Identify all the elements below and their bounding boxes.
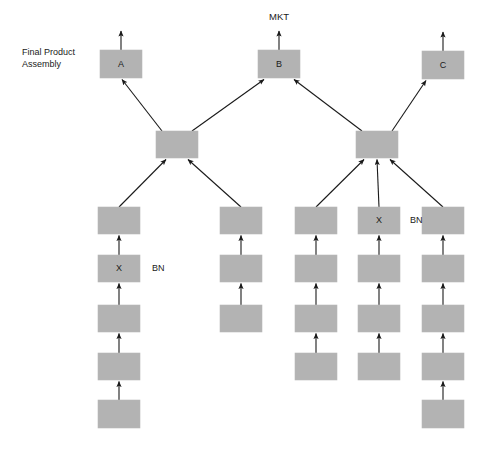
component-node[interactable]	[295, 207, 337, 234]
component-rect[interactable]	[295, 255, 337, 282]
component-rect[interactable]	[98, 353, 140, 380]
final-assembly-arrow	[192, 80, 264, 132]
component-node[interactable]	[295, 353, 337, 380]
component-rect[interactable]	[98, 207, 140, 234]
component-rect[interactable]	[422, 255, 464, 282]
bottleneck-annotation: BN	[410, 215, 423, 225]
component-node[interactable]	[422, 255, 464, 282]
final-product-label: B	[276, 59, 282, 69]
component-label: X	[376, 215, 382, 225]
component-rect[interactable]	[295, 305, 337, 332]
component-node[interactable]	[358, 305, 400, 332]
component-node[interactable]	[422, 305, 464, 332]
component-rect[interactable]	[358, 353, 400, 380]
component-label: X	[116, 263, 122, 273]
diagram-canvas: ABCXX Final Product Assembly MKT BNBN	[0, 0, 483, 457]
component-node[interactable]	[422, 353, 464, 380]
component-node[interactable]	[98, 400, 140, 428]
component-node[interactable]	[220, 207, 262, 234]
component-rect[interactable]	[422, 305, 464, 332]
assembly-arrow	[316, 160, 364, 208]
component-node[interactable]	[220, 255, 262, 282]
component-node[interactable]	[358, 255, 400, 282]
component-node[interactable]	[358, 353, 400, 380]
final-assembly-arrow	[294, 80, 362, 132]
component-node[interactable]: X	[358, 207, 400, 234]
component-rect[interactable]	[422, 207, 464, 234]
component-rect[interactable]	[295, 353, 337, 380]
nodes-layer: ABCXX	[98, 50, 464, 428]
subassembly-node[interactable]	[356, 131, 398, 158]
component-rect[interactable]	[220, 305, 262, 332]
final-assembly-arrow	[392, 81, 426, 132]
component-rect[interactable]	[422, 400, 464, 428]
component-node[interactable]: X	[98, 255, 140, 282]
component-node[interactable]	[422, 400, 464, 428]
assembly-arrow	[188, 160, 241, 208]
component-rect[interactable]	[358, 305, 400, 332]
subassembly-node[interactable]	[156, 131, 198, 158]
assembly-arrow	[377, 160, 379, 208]
component-rect[interactable]	[98, 305, 140, 332]
final-product-label: A	[118, 59, 124, 69]
bill-of-materials-diagram: ABCXX Final Product Assembly MKT BNBN	[0, 0, 483, 457]
component-rect[interactable]	[295, 207, 337, 234]
component-node[interactable]	[295, 255, 337, 282]
component-node[interactable]	[295, 305, 337, 332]
component-rect[interactable]	[220, 255, 262, 282]
component-node[interactable]	[98, 207, 140, 234]
market-output-label: MKT	[269, 11, 289, 22]
component-node[interactable]	[98, 353, 140, 380]
final-product-node[interactable]: B	[258, 50, 300, 78]
page-title-line1: Final Product	[22, 47, 76, 57]
component-node[interactable]	[220, 305, 262, 332]
assembly-arrow	[119, 160, 166, 208]
assembly-arrow	[390, 160, 443, 208]
component-node[interactable]	[422, 207, 464, 234]
final-assembly-arrow	[122, 80, 162, 132]
page-title-line2: Assembly	[22, 59, 62, 69]
component-rect[interactable]	[220, 207, 262, 234]
final-product-label: C	[440, 60, 447, 70]
subassembly-rect[interactable]	[156, 131, 198, 158]
component-rect[interactable]	[98, 400, 140, 428]
component-node[interactable]	[98, 305, 140, 332]
subassembly-rect[interactable]	[356, 131, 398, 158]
component-rect[interactable]	[358, 255, 400, 282]
component-rect[interactable]	[422, 353, 464, 380]
final-product-node[interactable]: A	[100, 50, 142, 78]
final-product-node[interactable]: C	[422, 51, 464, 79]
bottleneck-annotation: BN	[152, 263, 165, 273]
